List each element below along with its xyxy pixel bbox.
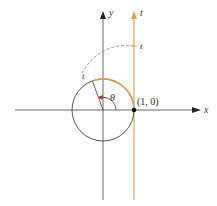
y-axis-arrow-icon <box>100 11 106 19</box>
angle-label: θ <box>110 92 115 103</box>
y-axis-label: y <box>108 7 114 18</box>
tangent-arrow-icon <box>131 11 137 19</box>
tangent-point-label: t <box>140 41 143 51</box>
tangent-line-label: t <box>140 7 143 18</box>
terminal-radius <box>92 81 103 110</box>
point-label: (1, 0) <box>137 96 159 108</box>
x-axis-label: x <box>203 104 209 115</box>
unit-circle-diagram: x y t t t θ (1, 0) <box>0 0 217 206</box>
point-1-0 <box>132 108 137 113</box>
diagram-canvas: x y t t t θ (1, 0) <box>0 0 217 206</box>
x-axis-arrow-icon <box>192 107 201 113</box>
dashed-wrap-arc <box>82 46 134 73</box>
arc-point-label: t <box>82 71 85 81</box>
